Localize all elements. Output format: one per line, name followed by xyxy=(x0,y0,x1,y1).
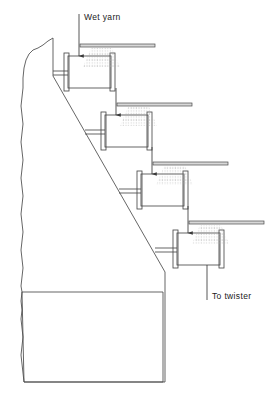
spray-mist-group xyxy=(80,47,235,246)
machine-frame xyxy=(21,38,165,382)
spray-mist-4 xyxy=(189,224,235,246)
wet-yarn-spray-roller-diagram: Wet yarn To twister xyxy=(0,0,272,394)
label-to-twister: To twister xyxy=(212,291,251,301)
spray-bar-1 xyxy=(80,44,155,47)
spray-bar-3 xyxy=(153,162,228,165)
frame-base-box xyxy=(22,292,163,382)
frame-broken-left-edge xyxy=(21,38,53,382)
label-wet-yarn: Wet yarn xyxy=(84,12,121,22)
spray-mist-2 xyxy=(117,106,163,128)
spray-mist-3 xyxy=(153,165,199,187)
spray-mist-1 xyxy=(80,47,126,69)
diagram-canvas: Wet yarn To twister xyxy=(0,0,272,394)
spray-bar-4 xyxy=(189,221,264,224)
spray-bar-2 xyxy=(117,103,192,106)
